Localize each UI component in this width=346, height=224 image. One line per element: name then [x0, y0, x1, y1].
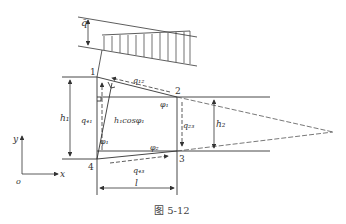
q12-label: q₁₂	[133, 76, 145, 85]
phi2-label: φ₂	[150, 143, 159, 152]
q43-label: q₄₃	[133, 166, 145, 175]
q23-label: q₂₃	[183, 121, 195, 130]
q41-label: q₄₁	[81, 116, 93, 125]
distributed-load	[78, 17, 197, 77]
length-label: l	[135, 178, 138, 188]
x-axis-label: x	[60, 169, 65, 179]
phi1-top-label: φ₁	[160, 100, 169, 109]
node-2-label: 2	[175, 86, 181, 96]
h1cos-label: h₁cosφ₁	[114, 116, 145, 125]
panel-outline	[62, 77, 270, 195]
node-3-label: 3	[179, 154, 185, 164]
node-4-label: 4	[88, 162, 94, 172]
origin-label: o	[16, 177, 21, 186]
node-1-label: 1	[90, 67, 96, 77]
figure-5-12: q̄ 1 2 3 4 q₁₂ q₂₃ q₄₁ q₄₃ h₁ h₂ h₁cosφ₁…	[0, 0, 346, 224]
h2-label: h₂	[216, 119, 226, 129]
panel-diagram: q̄ 1 2 3 4 q₁₂ q₂₃ q₄₁ q₄₃ h₁ h₂ h₁cosφ₁…	[0, 0, 346, 224]
y-axis-label: y	[12, 134, 19, 144]
figure-caption: 图 5-12	[154, 205, 190, 216]
coordinate-axes	[22, 136, 58, 174]
extension-lines	[177, 97, 333, 151]
h1-label: h₁	[60, 113, 69, 123]
q-bar-label: q̄	[81, 17, 87, 28]
phi1-left-label: φ₁	[100, 137, 109, 146]
